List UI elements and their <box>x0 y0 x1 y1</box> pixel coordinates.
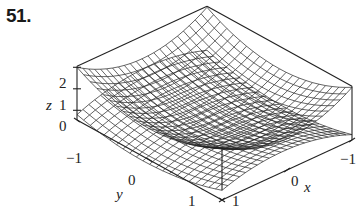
x-tick-1: 1 <box>232 194 240 209</box>
x-tick-0: 0 <box>291 174 299 189</box>
y-tick-0: 0 <box>128 173 136 188</box>
z-tick-1: 1 <box>59 98 67 113</box>
z-tick-2: 2 <box>59 76 67 91</box>
y-axis-label: y <box>116 187 123 202</box>
y-tick-neg1: −1 <box>66 151 82 166</box>
y-tick-1: 1 <box>188 194 196 209</box>
x-axis-label: x <box>304 180 311 195</box>
z-tick-0: 0 <box>59 119 67 134</box>
x-tick-neg1: −1 <box>340 152 356 167</box>
problem-number: 51. <box>6 5 31 27</box>
z-axis-label: z <box>46 98 52 113</box>
